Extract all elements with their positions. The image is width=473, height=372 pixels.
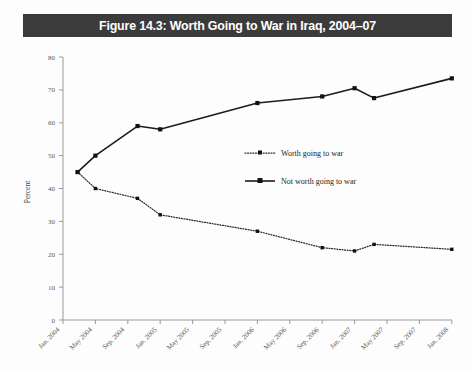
- chart-plot-area: 0 10 20 30 40 50 60 70 80 Percent: [0, 40, 473, 372]
- data-point: [321, 246, 324, 249]
- x-tick-label-may-2007: May 2007: [360, 325, 386, 351]
- x-tick-label-jan-2006: Jan. 2006: [231, 325, 256, 350]
- legend-label-worth: Worth going to war: [281, 149, 344, 158]
- y-tick-label-20: 20: [48, 251, 56, 259]
- x-tick-label-jan-2005: Jan. 2005: [134, 325, 159, 350]
- y-tick-label-0: 0: [52, 317, 56, 325]
- x-tick-label-may-2006: May 2006: [262, 325, 288, 351]
- data-point: [75, 170, 79, 174]
- legend-label-not-worth: Not worth going to war: [281, 177, 356, 186]
- x-tick-label-sep-2004: Sep. 2004: [101, 325, 127, 351]
- data-point: [256, 230, 259, 233]
- data-point: [353, 249, 356, 252]
- y-tick-label-60: 60: [48, 119, 56, 127]
- x-tick-label-sep-2005: Sep. 2005: [198, 325, 224, 351]
- y-tick-label-50: 50: [48, 152, 56, 160]
- data-point: [450, 248, 453, 251]
- y-tick-label-10: 10: [48, 284, 56, 292]
- x-tick-label-jan-2007: Jan. 2007: [328, 325, 353, 350]
- line-chart: 0 10 20 30 40 50 60 70 80 Percent: [0, 40, 473, 372]
- series-line-2: [78, 78, 452, 172]
- figure-title: Figure 14.3: Worth Going to War in Iraq,…: [99, 18, 376, 33]
- data-point: [94, 187, 97, 190]
- x-tick-label-sep-2006: Sep. 2006: [295, 325, 321, 351]
- x-tick-label-may-2004: May 2004: [68, 325, 94, 351]
- legend-marker-worth: [258, 151, 262, 155]
- data-point: [135, 124, 139, 128]
- x-tick-label-may-2005: May 2005: [165, 325, 191, 351]
- data-point: [136, 197, 139, 200]
- series-line-1: [78, 172, 452, 251]
- x-tick-label-jan-2008: Jan. 2008: [426, 325, 451, 350]
- data-point: [255, 101, 259, 105]
- data-point: [159, 213, 162, 216]
- y-axis-title: Percent: [23, 180, 32, 203]
- data-point: [353, 86, 357, 90]
- x-axis-labels: Jan. 2004 May 2004 Sep. 2004 Jan. 2005 M…: [37, 325, 451, 351]
- data-series-layer: [75, 76, 453, 252]
- chart-legend: Worth going to war Not worth going to wa…: [245, 149, 356, 186]
- x-axis-ticks: [63, 320, 452, 324]
- y-tick-label-70: 70: [48, 86, 56, 94]
- data-point: [450, 76, 454, 80]
- data-point: [372, 96, 376, 100]
- y-axis-ticks: 0 10 20 30 40 50 60 70 80: [48, 54, 63, 325]
- y-tick-label-30: 30: [48, 218, 56, 226]
- x-tick-label-sep-2007: Sep. 2007: [392, 325, 418, 351]
- figure-title-bar: Figure 14.3: Worth Going to War in Iraq,…: [23, 14, 452, 37]
- data-point: [320, 94, 324, 98]
- data-point: [158, 127, 162, 131]
- x-tick-label-jan-2004: Jan. 2004: [37, 325, 62, 350]
- y-tick-label-40: 40: [48, 185, 56, 193]
- figure-container: Figure 14.3: Worth Going to War in Iraq,…: [0, 0, 473, 372]
- data-point: [93, 154, 97, 158]
- data-point: [372, 243, 375, 246]
- y-tick-label-80: 80: [48, 54, 56, 62]
- legend-marker-not-worth: [258, 178, 263, 183]
